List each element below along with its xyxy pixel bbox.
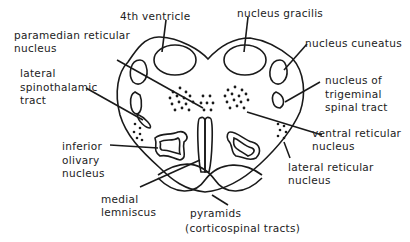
label-pyramids-2: (corticospinal tracts) [185,222,300,235]
trigeminal-tract-left [131,92,142,114]
label-inferior-olivary-2: olivary [62,154,100,167]
label-lateral-spinothalamic-1: lateral [20,67,56,80]
label-ventral-reticular-2: nucleus [312,140,355,153]
medial-lemniscus-right [205,117,212,172]
nucleus-cuneatus-right [270,60,287,84]
label-trigeminal-3: spinal tract [325,101,388,114]
inferior-olive-right [227,132,259,159]
inferior-olive-left-inner [160,138,180,154]
label-lateral-reticular-1: lateral reticular [288,161,374,174]
lateral-spinothalamic-left [137,114,150,128]
label-4th-ventricle: 4th ventricle [120,10,191,23]
label-medial-lemniscus-2: lemniscus [101,206,156,219]
label-medial-lemniscus-1: medial [101,193,138,206]
label-pyramids-1: pyramids [190,207,241,220]
label-nucleus-gracilis: nucleus gracilis [237,7,323,20]
label-trigeminal-1: nucleus of [325,74,382,87]
label-lateral-spinothalamic-2: spinothalamic [20,81,98,94]
label-lateral-spinothalamic-3: tract [20,94,46,107]
label-paramedian-reticular-2: nucleus [14,42,57,55]
label-trigeminal-2: trigeminal [325,88,382,101]
label-paramedian-reticular-1: paramedian reticular [14,29,130,42]
label-inferior-olivary-1: inferior [62,140,102,153]
label-nucleus-cuneatus: nucleus cuneatus [305,37,402,50]
trigeminal-tract-right [273,92,284,108]
label-ventral-reticular-1: ventral reticular [312,127,401,140]
medial-lemniscus-left [198,117,205,172]
label-inferior-olivary-3: nucleus [62,167,105,180]
label-lateral-reticular-2: nucleus [288,174,331,187]
nucleus-gracilis-left [154,45,196,75]
inferior-olive-right-inner [234,138,255,156]
